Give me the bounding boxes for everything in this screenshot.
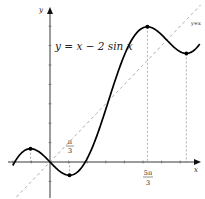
annotation-identity: y=x xyxy=(190,20,201,27)
critical-point-0 xyxy=(29,147,33,151)
critical-point-2 xyxy=(145,25,149,29)
x-tick-label-pi-over-3: π 3 xyxy=(66,138,74,155)
chart: x y y = x − 2 sin x y=x π 3 5π 3 xyxy=(0,0,205,199)
tick-den: 3 xyxy=(68,147,72,155)
x-tick-label-5pi-over-3: 5π 3 xyxy=(143,169,153,187)
y-axis-arrow-icon xyxy=(47,7,53,14)
x-axis-arrow-icon xyxy=(194,159,201,165)
tick-num: π xyxy=(68,138,73,146)
tick-den: 3 xyxy=(146,179,150,187)
critical-point-3 xyxy=(184,51,188,55)
annotation-main-function: y = x − 2 sin x xyxy=(54,40,133,52)
y-axis-label: y xyxy=(38,6,44,14)
critical-point-1 xyxy=(67,173,71,177)
x-axis-label: x xyxy=(194,166,198,174)
tick-num: 5π xyxy=(144,169,153,177)
